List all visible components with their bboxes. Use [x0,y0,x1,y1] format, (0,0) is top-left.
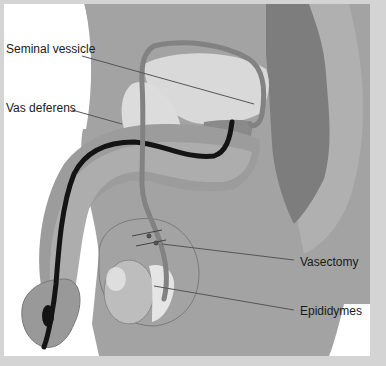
label-vas-deferens: Vas deferens [6,101,76,115]
testis-highlight [106,267,126,291]
label-vasectomy: Vasectomy [300,255,358,269]
label-seminal-vessicle: Seminal vessicle [6,42,95,56]
diagram-canvas: Seminal vessicle Vas deferens Vasectomy … [4,4,370,356]
urethra-bulb [42,305,54,327]
label-epididymes: Epididymes [300,304,362,318]
